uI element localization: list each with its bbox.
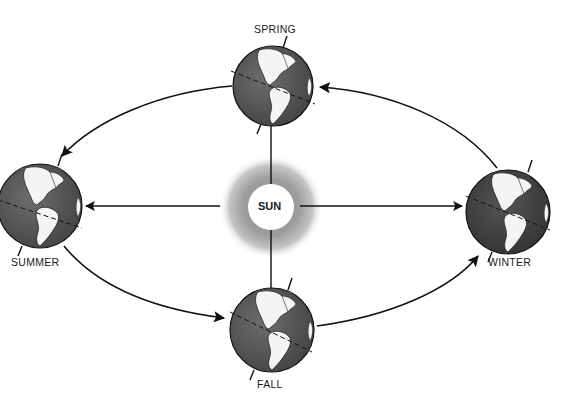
axis-north [528, 160, 532, 172]
sun-label: SUN [258, 200, 281, 212]
axis-south [257, 124, 261, 134]
season-label-summer: SUMMER [11, 256, 59, 268]
axis-south [250, 370, 254, 380]
season-label-winter: WINTER [488, 256, 531, 268]
orbit-arrow-winter-to-spring [320, 87, 497, 168]
earth-fall [230, 278, 314, 380]
earth-spring [231, 36, 315, 134]
season-label-spring: SPRING [254, 23, 296, 35]
earth-winter [466, 160, 550, 262]
orbit-arrow-spring-to-summer [62, 86, 232, 156]
axis-south [18, 246, 22, 256]
diagram-canvas [0, 0, 583, 410]
axis-north [58, 154, 62, 166]
earth-summer [0, 154, 82, 256]
axis-north [283, 36, 287, 48]
season-label-fall: FALL [257, 378, 283, 390]
orbit-arrow-summer-to-fall [64, 246, 224, 318]
axis-north [288, 278, 292, 290]
orbit-arrow-fall-to-winter [317, 256, 478, 326]
seasons-diagram: SUN SPRING SUMMER FALL WINTER [0, 0, 583, 410]
